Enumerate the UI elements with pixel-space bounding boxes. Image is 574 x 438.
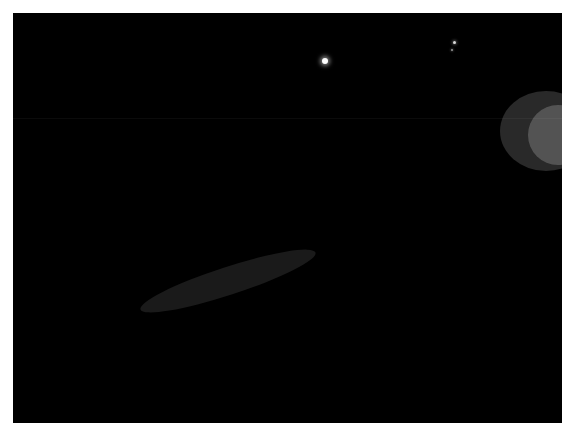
bright-moon: [322, 58, 328, 64]
space-background: [13, 13, 562, 423]
photo-frame: [0, 0, 574, 438]
sensor-seam-line: [13, 118, 562, 119]
rings-canvas: [13, 13, 562, 423]
faint-moon-lower: [451, 49, 453, 51]
saturn-rings-photo: [13, 13, 562, 423]
faint-moon-upper: [453, 41, 456, 44]
